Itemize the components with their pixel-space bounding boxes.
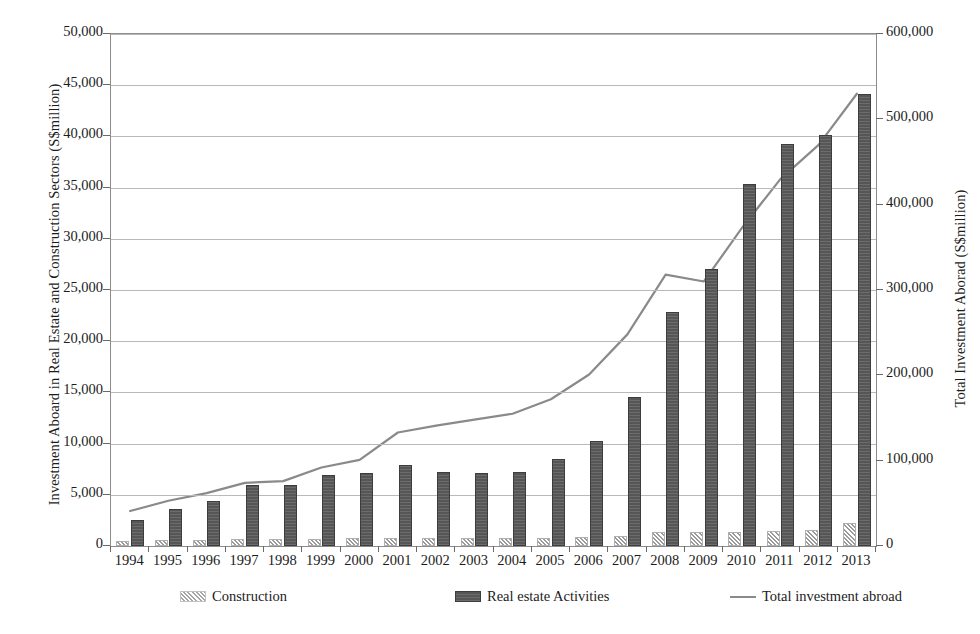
x-axis-tick-mark <box>531 546 532 552</box>
bar-construction <box>193 540 206 546</box>
legend-item-label: Real estate Activities <box>487 588 609 605</box>
y-axis-left-tick-mark <box>103 33 110 34</box>
bar-real-estate-activities <box>590 441 603 546</box>
gridline <box>111 392 876 393</box>
plot-area <box>110 33 877 547</box>
y-axis-right-tick-mark <box>876 374 883 375</box>
legend-item: Real estate Activities <box>455 588 609 605</box>
y-axis-left-tick-label: 40,000 <box>63 125 103 142</box>
y-axis-left-tick-label: 25,000 <box>63 279 103 296</box>
x-axis-tick-mark <box>301 546 302 552</box>
bar-real-estate-activities <box>858 94 871 546</box>
y-axis-right-tick-mark <box>876 204 883 205</box>
y-axis-right-tick-mark <box>876 33 883 34</box>
y-axis-left-tick-label: 35,000 <box>63 177 103 194</box>
gridline <box>111 136 876 137</box>
y-axis-right-ticks: 0100,000200,000300,000400,000500,000600,… <box>886 0 966 634</box>
y-axis-left-tick-label: 10,000 <box>63 433 103 450</box>
x-axis-labels: 1994199519961997199819992000200120022003… <box>110 552 875 576</box>
x-axis-tick-mark <box>607 546 608 552</box>
y-axis-left-tick-label: 50,000 <box>63 23 103 40</box>
x-axis-tick-mark <box>722 546 723 552</box>
bar-real-estate-activities <box>781 144 794 546</box>
x-axis-tick-mark <box>416 546 417 552</box>
x-axis-tick-mark <box>187 546 188 552</box>
bar-construction <box>461 538 474 546</box>
bar-real-estate-activities <box>552 459 565 546</box>
legend-item: Total investment abroad <box>730 588 902 605</box>
y-axis-left-tick-label: 30,000 <box>63 228 103 245</box>
y-axis-left-tick-label: 45,000 <box>63 74 103 91</box>
bar-construction <box>843 523 856 546</box>
x-axis-tick-mark <box>837 546 838 552</box>
legend-swatch-construction-icon <box>180 591 206 602</box>
chart-figure: Investment Aboard in Real Estate and Con… <box>0 0 980 634</box>
bar-construction <box>308 539 321 546</box>
y-axis-right-tick-mark <box>876 118 883 119</box>
x-axis-tick-mark <box>263 546 264 552</box>
bar-real-estate-activities <box>246 485 259 546</box>
bar-construction <box>537 538 550 546</box>
legend-item: Construction <box>180 588 287 605</box>
x-axis-tick-mark <box>340 546 341 552</box>
y-axis-right-tick-label: 500,000 <box>886 108 933 125</box>
y-axis-left-tick-label: 20,000 <box>63 330 103 347</box>
x-axis-tick-mark <box>225 546 226 552</box>
bar-real-estate-activities <box>322 475 335 546</box>
y-axis-right-tick-label: 100,000 <box>886 450 933 467</box>
bar-construction <box>269 539 282 546</box>
y-axis-right-tick-mark <box>876 289 883 290</box>
bar-real-estate-activities <box>207 501 220 546</box>
bar-construction <box>728 532 741 546</box>
y-axis-left-tick-mark <box>103 443 110 444</box>
y-axis-left-tick-mark <box>103 545 110 546</box>
bar-real-estate-activities <box>475 473 488 546</box>
y-axis-left-tick-label: 5,000 <box>70 484 103 501</box>
legend-swatch-line-icon <box>730 591 756 602</box>
x-axis-tick-label: 2013 <box>832 552 880 569</box>
x-axis-tick-mark <box>646 546 647 552</box>
x-axis-tick-mark <box>148 546 149 552</box>
gridline <box>111 444 876 445</box>
legend-item-label: Construction <box>212 588 287 605</box>
bar-construction <box>690 532 703 546</box>
gridline <box>111 341 876 342</box>
bar-construction <box>346 538 359 546</box>
x-axis-tick-mark <box>378 546 379 552</box>
y-axis-left-tick-mark <box>103 289 110 290</box>
bar-real-estate-activities <box>743 184 756 546</box>
bar-construction <box>384 538 397 546</box>
bar-construction <box>767 531 780 546</box>
x-axis-tick-mark <box>799 546 800 552</box>
y-axis-right-tick-label: 0 <box>886 535 893 552</box>
y-axis-left-tick-mark <box>103 238 110 239</box>
bar-real-estate-activities <box>666 312 679 546</box>
gridline <box>111 290 876 291</box>
y-axis-left-tick-label: 0 <box>96 535 103 552</box>
y-axis-left-tick-mark <box>103 84 110 85</box>
bar-construction <box>652 532 665 546</box>
x-axis-tick-mark <box>875 546 876 552</box>
y-axis-right-tick-label: 400,000 <box>886 194 933 211</box>
bar-construction <box>805 530 818 546</box>
bar-construction <box>499 538 512 546</box>
bar-real-estate-activities <box>169 509 182 546</box>
x-axis-tick-mark <box>110 546 111 552</box>
bar-real-estate-activities <box>399 465 412 546</box>
bar-construction <box>155 540 168 546</box>
y-axis-left-tick-mark <box>103 340 110 341</box>
bar-real-estate-activities <box>284 485 297 546</box>
gridline <box>111 34 876 35</box>
y-axis-right-tick-mark <box>876 545 883 546</box>
gridline <box>111 188 876 189</box>
gridline <box>111 85 876 86</box>
x-axis-tick-mark <box>684 546 685 552</box>
y-axis-right-tick-label: 200,000 <box>886 364 933 381</box>
x-axis-tick-mark <box>493 546 494 552</box>
y-axis-left-tick-label: 15,000 <box>63 381 103 398</box>
x-axis-tick-mark <box>454 546 455 552</box>
bar-real-estate-activities <box>437 472 450 546</box>
gridline <box>111 239 876 240</box>
y-axis-left-ticks: 05,00010,00015,00020,00025,00030,00035,0… <box>45 0 103 634</box>
gridline <box>111 495 876 496</box>
